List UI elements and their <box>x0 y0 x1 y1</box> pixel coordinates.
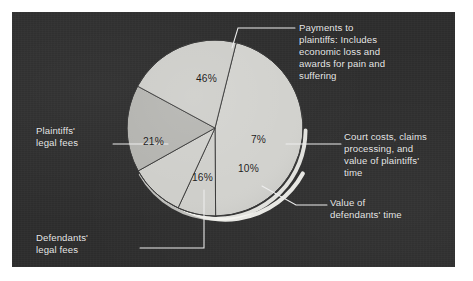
slice-value-10: 10% <box>238 163 259 174</box>
callout-defendants-legal-fees: Defendants' legal fees <box>36 232 156 256</box>
slice-value-46: 46% <box>196 73 217 84</box>
callout-value-of-defendants-time: Value of defendants' time <box>330 197 450 221</box>
slice-value-7: 7% <box>251 134 266 145</box>
slice-value-16: 16% <box>192 172 213 183</box>
pie-shading <box>127 40 303 216</box>
chart-page: 46% 7% 10% 16% 21% Payments to plaintiff… <box>0 0 473 281</box>
callout-payments-to-plaintiffs: Payments to plaintiffs: Includes economi… <box>299 22 449 82</box>
callout-court-costs: Court costs, claims processing, and valu… <box>344 131 469 179</box>
slice-value-21: 21% <box>143 136 164 147</box>
callout-plaintiffs-legal-fees: Plaintiffs' legal fees <box>36 125 136 149</box>
